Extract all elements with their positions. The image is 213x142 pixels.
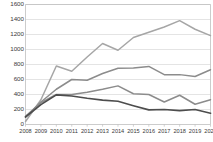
x-axis-tick-label: 2015: [127, 129, 139, 135]
x-axis-tick-label: 2014: [112, 129, 124, 135]
x-axis-tick-label: 2012: [81, 129, 93, 135]
x-axis-tick-label: 2008: [19, 129, 31, 135]
x-axis-tick-label: 2010: [50, 129, 62, 135]
x-axis-tick-label: 2020: [204, 129, 213, 135]
line-chart: 02004006008001000120014001600 2008200920…: [0, 0, 213, 142]
x-axis-tick-label: 2013: [96, 129, 108, 135]
x-axis-tick-label: 2009: [35, 129, 47, 135]
x-axis-tick-labels: 2008200920102011201220132014201520162017…: [0, 0, 213, 142]
x-axis-tick-label: 2017: [158, 129, 170, 135]
x-axis-tick-label: 2018: [173, 129, 185, 135]
x-axis-tick-label: 2019: [189, 129, 201, 135]
x-axis-tick-label: 2016: [143, 129, 155, 135]
x-axis-tick-label: 2011: [66, 129, 78, 135]
